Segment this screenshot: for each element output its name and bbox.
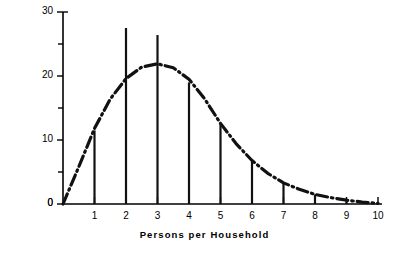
x-tick-label-7: 7 [274,210,294,221]
x-tick-label-1: 1 [85,210,105,221]
x-tick-label-10: 10 [368,210,388,221]
x-tick-label-2: 2 [116,210,136,221]
x-tick-label-3: 3 [148,210,168,221]
bar-series [95,28,379,204]
x-tick-label-4: 4 [179,210,199,221]
x-axis-title: Persons per Household [0,229,409,240]
y-tick-label-10: 10 [29,133,53,144]
x-tick-label-5: 5 [211,210,231,221]
x-tick-label-6: 6 [242,210,262,221]
y-tick-label-30: 30 [29,5,53,16]
x-tick-label-9: 9 [337,210,357,221]
chart-figure: % of Households Persons per Household 01… [0,0,409,253]
origin-label-0: 0 [29,197,53,208]
y-tick-label-20: 20 [29,69,53,80]
x-tick-label-8: 8 [305,210,325,221]
